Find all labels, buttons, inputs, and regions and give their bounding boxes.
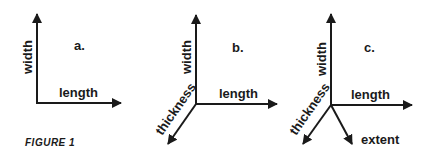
panel-b: b. width length thickness: [152, 15, 277, 144]
width-label: width: [20, 40, 35, 75]
width-label: width: [314, 42, 329, 77]
figure-1-diagram: a. width length b. width length thicknes…: [0, 0, 432, 159]
panel-a: a. width length: [20, 14, 121, 103]
extent-axis-arrow: [331, 105, 352, 144]
panel-label-c: c.: [364, 40, 375, 55]
width-label: width: [179, 40, 194, 75]
length-label: length: [219, 86, 258, 101]
length-label: length: [351, 87, 390, 102]
thickness-label: thickness: [286, 80, 333, 138]
panel-c: c. width length thickness extent: [286, 14, 412, 147]
panel-label-b: b.: [232, 40, 244, 55]
extent-label: extent: [361, 132, 400, 147]
length-label: length: [59, 85, 98, 100]
panel-label-a: a.: [74, 38, 85, 53]
figure-caption: FIGURE 1: [25, 137, 75, 148]
